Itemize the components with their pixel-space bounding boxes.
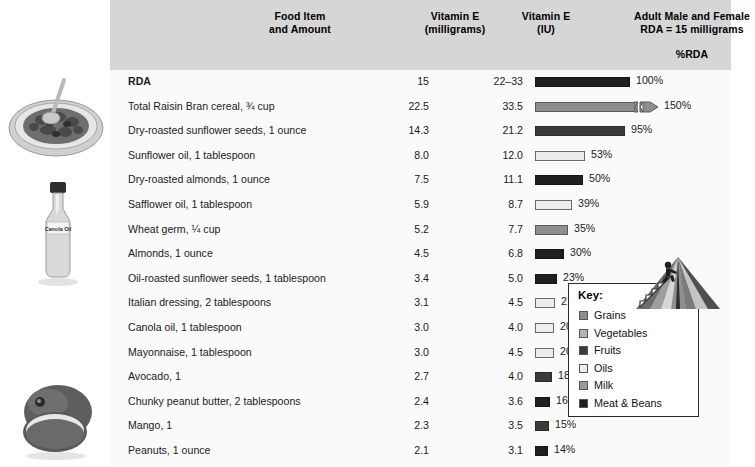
legend-swatch-icon bbox=[579, 311, 588, 320]
cell-food-item: Total Raisin Bran cereal, ¾ cup bbox=[128, 100, 275, 112]
cell-food-item: Wheat germ, ¼ cup bbox=[128, 223, 220, 235]
legend-swatch-icon bbox=[579, 329, 588, 338]
table-row: Dry-roasted sunflower seeds, 1 ounce14.3… bbox=[110, 119, 731, 144]
table-row: Mango, 12.33.515% bbox=[110, 414, 731, 439]
table-row: Total Raisin Bran cereal, ¾ cup22.533.51… bbox=[110, 95, 731, 120]
percent-rda-bar bbox=[535, 225, 568, 235]
percent-rda-bar bbox=[535, 175, 583, 185]
cell-food-item: Mayonnaise, 1 tablespoon bbox=[128, 346, 252, 358]
table-row: Dry-roasted almonds, 1 ounce7.511.150% bbox=[110, 168, 731, 193]
table-row: Peanuts, 1 ounce2.13.114% bbox=[110, 439, 731, 464]
cell-vitamin-e-iu: 5.0 bbox=[465, 272, 523, 284]
header-rda-line1: Adult Male and Female bbox=[634, 10, 750, 22]
legend-item-label: Oils bbox=[594, 362, 613, 374]
mango-fruit-illustration bbox=[6, 378, 106, 462]
cell-food-item: Peanuts, 1 ounce bbox=[128, 444, 210, 456]
cell-food-item: Almonds, 1 ounce bbox=[128, 247, 213, 259]
header-mg-line2: (milligrams) bbox=[400, 23, 510, 36]
raisin-bran-cereal-bowl-illustration bbox=[4, 72, 108, 162]
legend-item-label: Grains bbox=[594, 309, 626, 321]
cell-food-item: Dry-roasted almonds, 1 ounce bbox=[128, 173, 270, 185]
legend-swatch-icon bbox=[579, 346, 588, 355]
cell-percent-rda-bar: 15% bbox=[535, 414, 731, 439]
cell-food-item: Oil-roasted sunflower seeds, 1 tablespoo… bbox=[128, 272, 326, 284]
cell-food-item: RDA bbox=[128, 75, 151, 87]
cell-vitamin-e-iu: 8.7 bbox=[465, 198, 523, 210]
cell-food-item: Italian dressing, 2 tablespoons bbox=[128, 296, 271, 308]
cell-vitamin-e-iu: 4.0 bbox=[465, 321, 523, 333]
percent-rda-bar bbox=[535, 249, 564, 259]
legend-swatch-icon bbox=[579, 399, 588, 408]
cell-vitamin-e-mg: 2.3 bbox=[375, 419, 429, 431]
legend-item-label: Milk bbox=[594, 379, 613, 391]
percent-rda-label: 100% bbox=[636, 74, 663, 86]
cell-vitamin-e-iu: 6.8 bbox=[465, 247, 523, 259]
cell-food-item: Canola oil, 1 tablespoon bbox=[128, 321, 242, 333]
cell-vitamin-e-mg: 7.5 bbox=[375, 173, 429, 185]
cell-vitamin-e-mg: 3.1 bbox=[375, 296, 429, 308]
cell-vitamin-e-iu: 3.6 bbox=[465, 395, 523, 407]
legend-item-label: Vegetables bbox=[594, 327, 647, 339]
cell-vitamin-e-mg: 2.1 bbox=[375, 444, 429, 456]
header-rda-line2: RDA = 15 milligrams bbox=[592, 23, 755, 36]
legend-swatch-icon bbox=[579, 364, 588, 373]
cell-vitamin-e-iu: 3.1 bbox=[465, 444, 523, 456]
cell-vitamin-e-iu: 7.7 bbox=[465, 223, 523, 235]
canola-oil-bottle-illustration: Canola Oil bbox=[20, 178, 96, 290]
legend-title: Key: bbox=[578, 289, 603, 301]
cell-vitamin-e-iu: 22–33 bbox=[465, 75, 523, 87]
percent-rda-bar bbox=[535, 421, 549, 431]
cell-vitamin-e-mg: 14.3 bbox=[375, 124, 429, 136]
column-header-vitamin-e-mg: Vitamin E (milligrams) bbox=[400, 10, 510, 36]
percent-rda-label: 30% bbox=[570, 246, 591, 258]
cell-vitamin-e-mg: 3.0 bbox=[375, 346, 429, 358]
percent-rda-bar bbox=[535, 397, 550, 407]
column-header-rda: Adult Male and Female RDA = 15 milligram… bbox=[592, 10, 755, 36]
header-food-line2: and Amount bbox=[210, 23, 390, 36]
cell-vitamin-e-iu: 4.5 bbox=[465, 296, 523, 308]
cell-percent-rda-bar: 35% bbox=[535, 218, 731, 243]
cell-food-item: Dry-roasted sunflower seeds, 1 ounce bbox=[128, 124, 306, 136]
percent-rda-label: 95% bbox=[631, 123, 652, 135]
cell-percent-rda-bar: 95% bbox=[535, 119, 731, 144]
table-row: Sunflower oil, 1 tablespoon8.012.053% bbox=[110, 144, 731, 169]
cell-vitamin-e-mg: 22.5 bbox=[375, 100, 429, 112]
cell-vitamin-e-mg: 5.2 bbox=[375, 223, 429, 235]
percent-rda-bar bbox=[535, 126, 625, 136]
percent-rda-bar bbox=[535, 372, 552, 382]
percent-rda-bar bbox=[535, 102, 638, 112]
header-mg-line1: Vitamin E bbox=[431, 10, 480, 22]
food-pyramid-icon bbox=[628, 253, 728, 315]
header-iu-line2: (IU) bbox=[498, 23, 594, 36]
cell-percent-rda-bar: 53% bbox=[535, 144, 731, 169]
cell-vitamin-e-mg: 8.0 bbox=[375, 149, 429, 161]
cell-food-item: Avocado, 1 bbox=[128, 370, 181, 382]
cell-food-item: Sunflower oil, 1 tablespoon bbox=[128, 149, 255, 161]
cell-vitamin-e-mg: 3.4 bbox=[375, 272, 429, 284]
table-header-labels: Food Item and Amount Vitamin E (milligra… bbox=[110, 0, 731, 70]
cell-percent-rda-bar: 50% bbox=[535, 168, 731, 193]
cell-vitamin-e-iu: 4.0 bbox=[465, 370, 523, 382]
cell-vitamin-e-iu: 21.2 bbox=[465, 124, 523, 136]
cell-food-item: Chunky peanut butter, 2 tablespoons bbox=[128, 395, 301, 407]
header-iu-line1: Vitamin E bbox=[522, 10, 571, 22]
cell-vitamin-e-iu: 3.5 bbox=[465, 419, 523, 431]
table-row: Safflower oil, 1 tablespoon5.98.739% bbox=[110, 193, 731, 218]
percent-rda-label: 23% bbox=[563, 271, 584, 283]
percent-rda-label: 150% bbox=[664, 99, 691, 111]
cell-vitamin-e-iu: 11.1 bbox=[465, 173, 523, 185]
percent-rda-bar bbox=[535, 151, 585, 161]
percent-rda-label: 39% bbox=[578, 197, 599, 209]
table-row: Wheat germ, ¼ cup5.27.735% bbox=[110, 218, 731, 243]
percent-rda-label: 14% bbox=[554, 443, 575, 455]
cell-vitamin-e-mg: 4.5 bbox=[375, 247, 429, 259]
cell-food-item: Mango, 1 bbox=[128, 419, 172, 431]
bottle-label: Canola Oil bbox=[45, 226, 72, 232]
cell-vitamin-e-iu: 4.5 bbox=[465, 346, 523, 358]
percent-rda-label: 15% bbox=[555, 418, 576, 430]
percent-rda-label: 35% bbox=[574, 222, 595, 234]
cell-vitamin-e-mg: 15 bbox=[375, 75, 429, 87]
column-header-percent-rda: %RDA bbox=[592, 48, 755, 61]
percent-rda-bar bbox=[535, 200, 572, 210]
